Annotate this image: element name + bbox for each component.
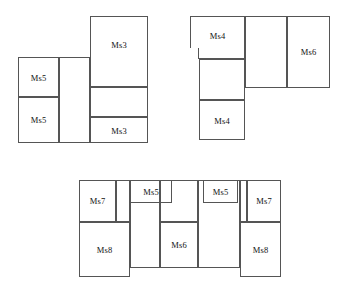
diagram-canvas: Ms5Ms5Ms3Ms3Ms4Ms4Ms6Ms7Ms8Ms5Ms6Ms5Ms7M… bbox=[0, 0, 344, 291]
cell-label: Ms8 bbox=[80, 245, 129, 255]
cell-blank-col3-top bbox=[160, 180, 198, 222]
cell-blank-left-strip bbox=[116, 180, 130, 222]
cell-label: Ms7 bbox=[80, 196, 115, 206]
cell-ms6-bottom: Ms6 bbox=[160, 222, 198, 268]
cell-ms8-right: Ms8 bbox=[240, 222, 281, 277]
cell-label: Ms7 bbox=[248, 196, 280, 206]
cell-ms5-right-mid: Ms5 bbox=[203, 180, 238, 203]
bottom-assembly: Ms7Ms8Ms5Ms6Ms5Ms7Ms8 bbox=[0, 0, 344, 291]
cell-blank-right-strip bbox=[240, 180, 247, 222]
cell-label: Ms8 bbox=[241, 245, 280, 255]
cell-ms8-left: Ms8 bbox=[79, 222, 130, 277]
cell-ms7-left: Ms7 bbox=[79, 180, 116, 222]
cell-label: Ms5 bbox=[204, 187, 237, 197]
cell-ms7-right: Ms7 bbox=[247, 180, 281, 222]
cell-label: Ms6 bbox=[161, 240, 197, 250]
